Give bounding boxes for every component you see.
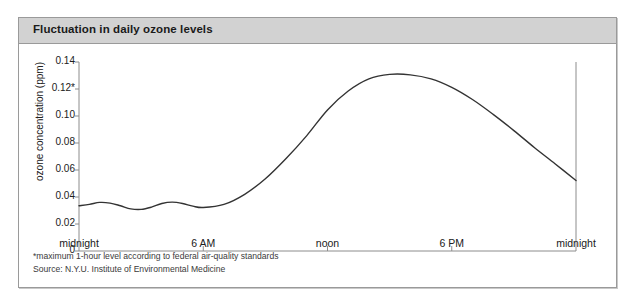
chart-axes — [79, 62, 576, 251]
page-title: Fluctuation in daily ozone levels — [33, 23, 213, 35]
x-tick-label: noon — [316, 237, 339, 249]
x-tick-label: midnight — [556, 237, 596, 249]
footnote-standard: *maximum 1-hour level according to feder… — [33, 250, 593, 263]
x-tick-label: 6 AM — [191, 237, 215, 249]
x-tick-label: midnight — [59, 237, 99, 249]
footnote-source: Source: N.Y.U. Institute of Environmenta… — [33, 263, 593, 276]
y-tick-marks — [75, 62, 79, 251]
footnote-block: *maximum 1-hour level according to feder… — [33, 250, 593, 276]
ozone-data-line — [79, 74, 576, 209]
chart-title-bar: Fluctuation in daily ozone levels — [19, 18, 616, 44]
x-tick-label: 6 PM — [439, 237, 464, 249]
chart-figure: Fluctuation in daily ozone levels ozone … — [18, 17, 617, 288]
